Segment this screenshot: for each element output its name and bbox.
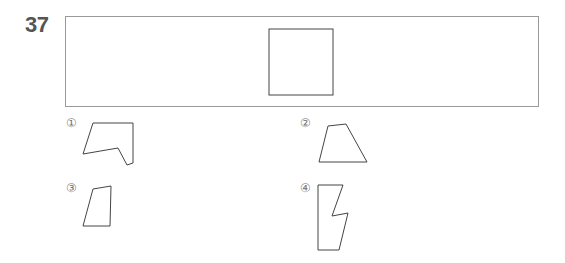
option-4-shape[interactable] (318, 185, 348, 250)
square-figure (269, 29, 333, 95)
option-3-shape[interactable] (83, 186, 111, 226)
option-1-shape[interactable] (83, 123, 133, 165)
option-2-shape[interactable] (319, 124, 367, 162)
figures (0, 0, 565, 263)
